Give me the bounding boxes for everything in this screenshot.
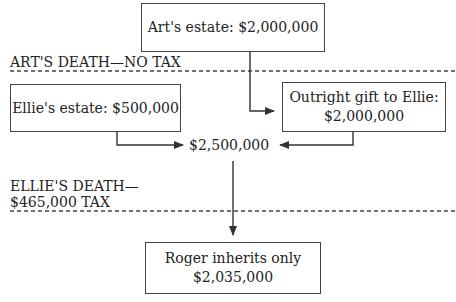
roger-inherits-box: Roger inherits only $2,035,000 [145,242,321,294]
arrow-ellie-to-total [117,131,183,145]
roger-inherits-label: Roger inherits only [165,249,301,268]
ellies-death-label-line2: $465,000 TAX [10,194,110,211]
arts-death-label: ART'S DEATH—NO TAX [10,54,181,71]
ellies-death-label-line1: ELLIE'S DEATH— [10,178,139,195]
ellies-estate-label: Ellie's estate: $500,000 [12,99,179,118]
estate-flow-diagram: Art's estate: $2,000,000 ART'S DEATH—NO … [0,0,456,302]
arts-estate-label: Art's estate: $2,000,000 [148,18,319,37]
roger-inherits-amount: $2,035,000 [193,268,273,287]
arrow-gift-to-total [280,131,353,145]
outright-gift-amount: $2,000,000 [324,107,404,126]
combined-total: $2,500,000 [189,137,269,154]
outright-gift-label: Outright gift to Ellie: [289,88,438,107]
outright-gift-box: Outright gift to Ellie: $2,000,000 [282,82,446,132]
ellies-estate-box: Ellie's estate: $500,000 [10,84,181,132]
arrow-art-to-gift [250,51,274,111]
arts-estate-box: Art's estate: $2,000,000 [141,3,325,52]
